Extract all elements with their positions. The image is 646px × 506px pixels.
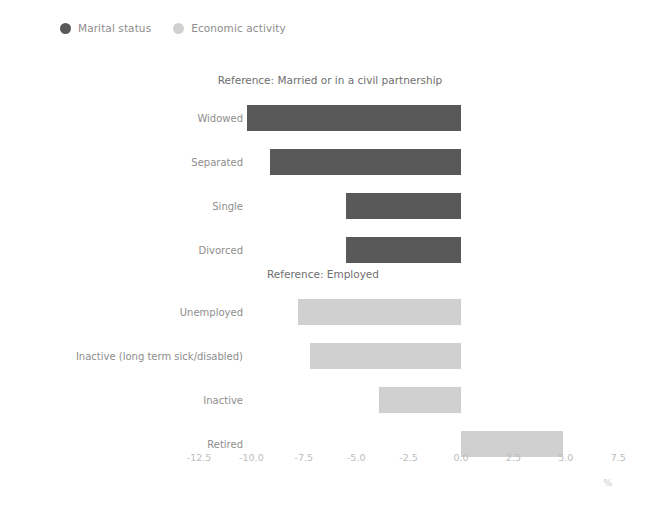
x-axis-tick-label: -7.5 (295, 452, 314, 463)
chart-panel-marital-status: Reference: Married or in a civil partner… (0, 74, 646, 259)
bar[interactable] (298, 299, 461, 325)
bar-row: Inactive (0, 378, 646, 422)
bar[interactable] (310, 343, 461, 369)
bar-row: Widowed (0, 96, 646, 140)
panel-title: Reference: Married or in a civil partner… (0, 74, 646, 86)
x-axis-tick-label: 7.5 (611, 452, 626, 463)
chart-figure: Marital statusEconomic activity Referenc… (0, 0, 646, 506)
bar-row: Separated (0, 140, 646, 184)
x-axis-tick-label: -10.0 (239, 452, 264, 463)
x-axis-tick-label: -12.5 (187, 452, 212, 463)
panel-plot-area: UnemployedInactive (long term sick/disab… (0, 290, 646, 466)
bar[interactable] (379, 387, 461, 413)
filled-circle-icon (173, 23, 184, 34)
x-axis-tick-label: 5.0 (558, 452, 573, 463)
x-axis-tick-label: 2.5 (506, 452, 521, 463)
bar[interactable] (346, 193, 461, 219)
legend-item-1[interactable]: Economic activity (173, 22, 286, 34)
panel-plot-area: WidowedSeparatedSingleDivorced (0, 96, 646, 272)
x-axis-label: % (603, 478, 612, 488)
clipped-heading-strip (0, 0, 646, 8)
chart-panel-economic-activity: Reference: Employed UnemployedInactive (… (0, 268, 646, 448)
x-axis-tick-label: -5.0 (347, 452, 366, 463)
legend-item-label: Economic activity (191, 22, 286, 34)
chart-legend: Marital statusEconomic activity (60, 22, 286, 34)
bar-row: Inactive (long term sick/disabled) (0, 334, 646, 378)
category-label: Unemployed (180, 307, 243, 318)
bar[interactable] (270, 149, 461, 175)
x-axis: -12.5-10.0-7.5-5.0-2.50.02.55.07.5% (0, 452, 646, 506)
category-label: Inactive (203, 395, 243, 406)
x-axis-tick-label: 0.0 (453, 452, 468, 463)
category-label: Divorced (199, 245, 243, 256)
legend-item-0[interactable]: Marital status (60, 22, 151, 34)
legend-item-label: Marital status (78, 22, 151, 34)
category-label: Retired (207, 439, 243, 450)
filled-circle-icon (60, 23, 71, 34)
category-label: Single (212, 201, 243, 212)
category-label: Inactive (long term sick/disabled) (76, 351, 243, 362)
bar[interactable] (346, 237, 461, 263)
bar-row: Unemployed (0, 290, 646, 334)
category-label: Separated (191, 157, 243, 168)
bar[interactable] (247, 105, 461, 131)
bar-row: Single (0, 184, 646, 228)
bar-row: Divorced (0, 228, 646, 272)
panel-title: Reference: Employed (0, 268, 646, 280)
x-axis-tick-label: -2.5 (399, 452, 418, 463)
category-label: Widowed (197, 113, 243, 124)
